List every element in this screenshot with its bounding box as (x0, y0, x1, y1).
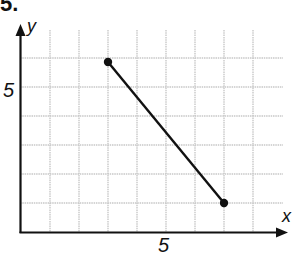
y-axis-label: y (27, 16, 36, 37)
x-axis (20, 228, 289, 238)
x-axis-arrow-icon (276, 228, 288, 238)
endpoint-dot (220, 199, 228, 207)
y-axis-arrow-icon (16, 24, 26, 36)
y-axis (16, 24, 26, 233)
grid (20, 30, 283, 232)
endpoint-dot (104, 58, 112, 66)
x-axis-label: x (282, 206, 291, 227)
y-tick-label: 5 (3, 79, 14, 102)
coordinate-plane (0, 0, 295, 254)
x-tick-label: 5 (158, 234, 169, 254)
